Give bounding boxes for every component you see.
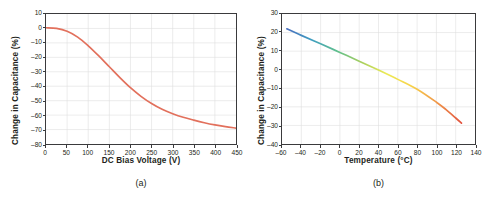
y-tick-mark bbox=[43, 13, 46, 14]
x-axis-title-b: Temperature (°C) bbox=[281, 156, 476, 165]
x-tick-mark bbox=[437, 145, 438, 148]
x-tick-mark bbox=[173, 145, 174, 148]
x-tick-mark bbox=[151, 145, 152, 148]
y-tick-mark bbox=[279, 88, 282, 89]
y-axis-title-a: Change in Capacitance (%) bbox=[11, 36, 20, 145]
x-tick-mark bbox=[359, 145, 360, 148]
y-tick-label: 10 bbox=[26, 10, 42, 17]
y-tick-label: 30 bbox=[262, 10, 278, 17]
x-tick-mark bbox=[194, 145, 195, 148]
y-tick-mark bbox=[43, 86, 46, 87]
y-tick-label: –30 bbox=[26, 68, 42, 75]
y-tick-mark bbox=[279, 13, 282, 14]
x-tick-mark bbox=[66, 145, 67, 148]
panel-caption-a: (a) bbox=[45, 178, 237, 188]
y-tick-mark bbox=[279, 126, 282, 127]
y-tick-mark bbox=[43, 115, 46, 116]
y-tick-mark bbox=[279, 107, 282, 108]
x-tick-mark bbox=[45, 145, 46, 148]
x-axis-title-a: DC Bias Voltage (V) bbox=[45, 156, 237, 165]
x-tick-mark bbox=[87, 145, 88, 148]
y-tick-mark bbox=[43, 57, 46, 58]
plot-area-a bbox=[45, 13, 237, 145]
y-tick-mark bbox=[43, 27, 46, 28]
x-tick-mark bbox=[237, 145, 238, 148]
y-tick-label: –70 bbox=[26, 127, 42, 134]
y-tick-label: 0 bbox=[26, 24, 42, 31]
y-tick-mark bbox=[279, 31, 282, 32]
y-tick-label: –20 bbox=[26, 54, 42, 61]
x-tick-mark bbox=[417, 145, 418, 148]
y-tick-label: –10 bbox=[26, 39, 42, 46]
data-curve-b bbox=[282, 14, 475, 144]
y-tick-mark bbox=[43, 130, 46, 131]
y-tick-mark bbox=[43, 71, 46, 72]
x-tick-mark bbox=[109, 145, 110, 148]
x-tick-mark bbox=[476, 145, 477, 148]
x-tick-mark bbox=[300, 145, 301, 148]
y-tick-label: –50 bbox=[26, 98, 42, 105]
chart-panel-a: 100–10–20–30–40–50–60–70–80 050100150200… bbox=[0, 0, 246, 199]
x-tick-mark bbox=[398, 145, 399, 148]
y-tick-label: –60 bbox=[26, 112, 42, 119]
x-tick-mark bbox=[215, 145, 216, 148]
plot-area-b bbox=[281, 13, 476, 145]
chart-panel-b: 3020100–10–20–30–40 –60–40–2002040608010… bbox=[246, 0, 492, 199]
y-tick-label: –40 bbox=[26, 83, 42, 90]
y-tick-mark bbox=[43, 101, 46, 102]
figure-container: 100–10–20–30–40–50–60–70–80 050100150200… bbox=[0, 0, 492, 199]
y-axis-title-b: Change in Capacitance (%) bbox=[257, 36, 266, 145]
y-tick-label: –80 bbox=[26, 142, 42, 149]
x-tick-mark bbox=[281, 145, 282, 148]
data-curve-a bbox=[46, 14, 236, 144]
y-tick-mark bbox=[279, 50, 282, 51]
x-tick-mark bbox=[456, 145, 457, 148]
y-tick-mark bbox=[43, 42, 46, 43]
y-tick-label: 20 bbox=[262, 29, 278, 36]
x-tick-mark bbox=[339, 145, 340, 148]
panel-caption-b: (b) bbox=[281, 178, 476, 188]
x-tick-mark bbox=[130, 145, 131, 148]
x-tick-mark bbox=[320, 145, 321, 148]
x-tick-mark bbox=[378, 145, 379, 148]
y-tick-mark bbox=[279, 69, 282, 70]
